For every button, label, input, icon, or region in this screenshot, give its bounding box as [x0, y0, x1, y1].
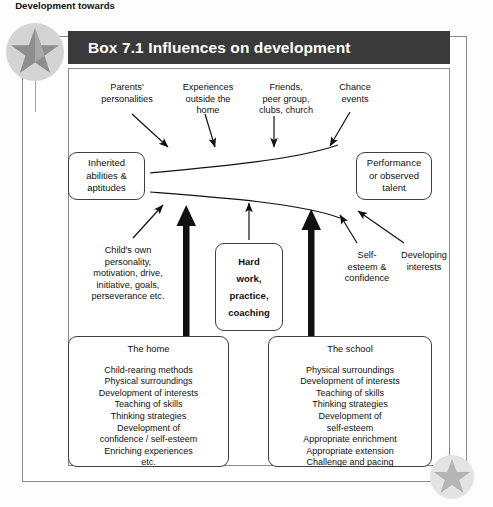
star-icon [6, 23, 64, 81]
label-line: interests [407, 262, 442, 272]
box-the-home-item: confidence / self-esteem [69, 434, 228, 446]
star-stem [35, 80, 36, 112]
label-self-esteem-confidence: Self- esteem & confidence [336, 250, 398, 285]
label-line: esteem & [348, 262, 387, 272]
label-parents-personalities: Parents' personalities [85, 82, 169, 105]
box-line: talent [382, 182, 405, 193]
box-the-home-title: The home [69, 344, 228, 356]
box-performance-observed-talent: Performance or observed talent [356, 152, 432, 200]
label-line: outside the [186, 94, 231, 104]
box-line: Performance [367, 157, 421, 168]
box-inherited-abilities: Inherited abilities & aptitudes [68, 152, 145, 200]
box-the-home-item: Development of interests [69, 388, 228, 400]
box-the-school-item: Thinking strategies [269, 399, 431, 411]
label-line: Self- [358, 250, 377, 260]
box-the-school-item: self-esteem [269, 423, 431, 435]
box-line: Hard [238, 256, 260, 267]
figure-title-bar: Box 7.1 Influences on development [68, 31, 450, 64]
label-line: Child's own [105, 245, 152, 255]
box-the-school-item: Appropriate extension [269, 446, 431, 458]
label-friends-peer-group: Friends, peer group, clubs, church [246, 82, 326, 117]
label-developing-interests: Developing interests [392, 250, 456, 273]
box-the-school-item: Development of interests [269, 376, 431, 388]
label-line: initiative, goals, [97, 280, 160, 290]
box-line: work, [237, 273, 262, 284]
box-the-school-item: Appropriate enrichment [269, 434, 431, 446]
label-line: personalities [101, 94, 153, 104]
label-line: confidence [345, 273, 389, 283]
star-icon [430, 455, 474, 499]
label-development-towards: Development towards [0, 0, 130, 11]
label-experiences-outside-home: Experiences outside the home [172, 82, 244, 117]
box-the-school-item: Physical surroundings [269, 365, 431, 377]
box-the-school-title: The school [269, 344, 431, 356]
label-chance-events: Chance events [325, 82, 385, 105]
box-hard-work-practice-coaching: Hard work, practice, coaching [215, 243, 283, 331]
box-the-home-item: etc. [69, 457, 228, 469]
box-the-school-item: Development of [269, 411, 431, 423]
label-line: Chance [339, 82, 371, 92]
label-line: Friends, [269, 82, 302, 92]
label-line: Developing [401, 250, 447, 260]
box-the-school: The school Physical surroundings Develop… [268, 336, 432, 467]
label-line: clubs, church [259, 105, 313, 115]
label-line: home [197, 105, 220, 115]
box-the-home-item: Thinking strategies [69, 411, 228, 423]
label-childs-own-personality: Child's own personality, motivation, dri… [78, 245, 178, 303]
box-the-home-item: Enriching experiences [69, 446, 228, 458]
box-line: practice, [229, 290, 268, 301]
box-the-school-item: Teaching of skills [269, 388, 431, 400]
label-line: personality, [105, 257, 151, 267]
box-the-home-item: Development of [69, 423, 228, 435]
label-line: peer group, [263, 94, 310, 104]
label-line: Parents' [110, 82, 143, 92]
page-title: Box 7.1 Influences on development [68, 39, 351, 57]
box-the-home: The home Child-rearing methods Physical … [68, 336, 229, 467]
box-the-home-item: Child-rearing methods [69, 365, 228, 377]
box-the-school-item: Challenge and pacing [269, 457, 431, 469]
box-line: or observed [369, 170, 419, 181]
label-line: motivation, drive, [93, 268, 162, 278]
box-line: aptitudes [87, 182, 126, 193]
label-line: Experiences [183, 82, 234, 92]
box-the-home-item: Physical surroundings [69, 376, 228, 388]
label-line: perseverance etc. [91, 291, 164, 301]
box-the-home-item: Teaching of skills [69, 399, 228, 411]
label-line: events [341, 94, 368, 104]
box-line: coaching [228, 307, 270, 318]
box-line: abilities & [86, 170, 127, 181]
box-line: Inherited [88, 157, 125, 168]
figure-page: Box 7.1 Influences on development [0, 0, 493, 507]
